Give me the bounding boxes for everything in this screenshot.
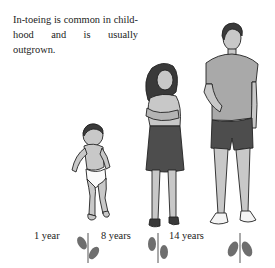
girl-figure <box>138 60 194 230</box>
caption-text: In-toeing is common in child- hood and i… <box>13 12 138 57</box>
footprints-14-years <box>223 233 257 265</box>
caption-line-2: hood and is usually outgrown. <box>13 27 138 57</box>
age-label-1-year: 1 year <box>34 230 60 241</box>
age-label-8-years: 8 years <box>101 230 131 241</box>
toddler-figure <box>60 122 116 226</box>
teen-boy-figure <box>198 20 266 230</box>
age-label-14-years: 14 years <box>169 230 204 241</box>
footprints-1-year <box>74 233 102 265</box>
caption-line-1: In-toeing is common in child- <box>13 12 138 27</box>
